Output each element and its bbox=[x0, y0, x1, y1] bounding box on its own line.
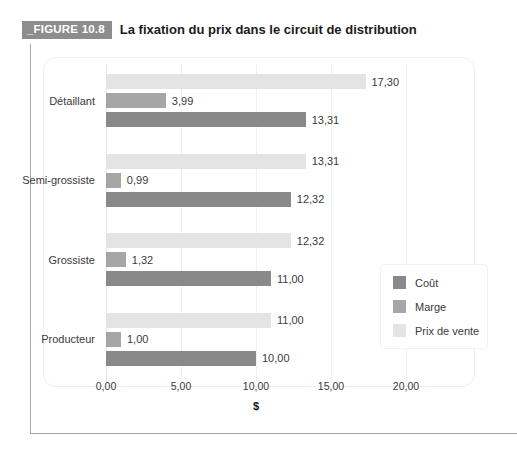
x-axis-tick-label: 0,00 bbox=[96, 380, 116, 392]
bar-row: 11,00 bbox=[106, 271, 406, 286]
bar[interactable] bbox=[106, 252, 126, 267]
plot-area: Détaillant17,303,9913,31Semi-grossiste13… bbox=[106, 64, 406, 382]
category-label: Détaillant bbox=[49, 95, 95, 107]
bar-row: 0,99 bbox=[106, 173, 406, 188]
x-axis-tick-label: 15,00 bbox=[318, 380, 344, 392]
bar-row: 10,00 bbox=[106, 351, 406, 366]
bar-value-label: 0,99 bbox=[127, 174, 148, 186]
figure-title: La fixation du prix dans le circuit de d… bbox=[120, 22, 417, 37]
category-label: Semi-grossiste bbox=[22, 174, 95, 186]
legend-item[interactable]: Coût bbox=[393, 276, 477, 289]
figure-header: _FIGURE 10.8 La fixation du prix dans le… bbox=[22, 21, 417, 39]
bar-value-label: 17,30 bbox=[372, 76, 400, 88]
legend-label: Prix de vente bbox=[415, 325, 479, 337]
x-axis-title: $ bbox=[253, 400, 259, 412]
bar-value-label: 11,00 bbox=[277, 273, 304, 285]
category-label: Producteur bbox=[41, 333, 95, 345]
bar[interactable] bbox=[106, 192, 291, 207]
x-axis-tick-label: 20,00 bbox=[393, 380, 419, 392]
legend-label: Marge bbox=[415, 301, 446, 313]
bar-group: Semi-grossiste13,310,9912,32 bbox=[106, 154, 406, 207]
legend-label: Coût bbox=[415, 277, 438, 289]
bar-value-label: 13,31 bbox=[312, 155, 340, 167]
legend-swatch-icon bbox=[393, 300, 406, 313]
bar-row: 13,31 bbox=[106, 112, 406, 127]
bar[interactable] bbox=[106, 93, 166, 108]
bar-row: 1,00 bbox=[106, 332, 406, 347]
legend-swatch-icon bbox=[393, 324, 406, 337]
bar-row: 3,99 bbox=[106, 93, 406, 108]
bar-value-label: 1,00 bbox=[127, 333, 148, 345]
bar[interactable] bbox=[106, 74, 366, 89]
bar-row: 1,32 bbox=[106, 252, 406, 267]
category-label: Grossiste bbox=[49, 254, 95, 266]
legend-item[interactable]: Prix de vente bbox=[393, 324, 477, 337]
bar-group: Grossiste12,321,3211,00 bbox=[106, 233, 406, 286]
x-axis-tick-label: 5,00 bbox=[171, 380, 191, 392]
bar-row: 12,32 bbox=[106, 233, 406, 248]
bar[interactable] bbox=[106, 313, 271, 328]
bar[interactable] bbox=[106, 351, 256, 366]
bar-value-label: 11,00 bbox=[277, 314, 304, 326]
bar-group: Producteur11,001,0010,00 bbox=[106, 313, 406, 366]
bar-value-label: 10,00 bbox=[262, 352, 290, 364]
figure-number-badge: _FIGURE 10.8 bbox=[22, 21, 112, 39]
bar[interactable] bbox=[106, 332, 121, 347]
bar-row: 13,31 bbox=[106, 154, 406, 169]
bar[interactable] bbox=[106, 233, 291, 248]
x-axis-tick-labels: 0,005,0010,0015,0020,00 bbox=[106, 380, 406, 398]
legend-item[interactable]: Marge bbox=[393, 300, 477, 313]
bar-row: 12,32 bbox=[106, 192, 406, 207]
bar-value-label: 12,32 bbox=[297, 235, 325, 247]
bar-value-label: 3,99 bbox=[172, 95, 193, 107]
bar-value-label: 12,32 bbox=[297, 193, 325, 205]
chart-panel: Détaillant17,303,9913,31Semi-grossiste13… bbox=[43, 57, 475, 387]
x-axis-tick-label: 10,00 bbox=[243, 380, 269, 392]
bar[interactable] bbox=[106, 173, 121, 188]
figure-page: _FIGURE 10.8 La fixation du prix dans le… bbox=[0, 0, 517, 458]
bar-row: 11,00 bbox=[106, 313, 406, 328]
bar-value-label: 13,31 bbox=[312, 114, 340, 126]
bar-group: Détaillant17,303,9913,31 bbox=[106, 74, 406, 127]
bar-row: 17,30 bbox=[106, 74, 406, 89]
bar[interactable] bbox=[106, 271, 271, 286]
chart-legend: CoûtMargePrix de vente bbox=[380, 264, 488, 349]
bar[interactable] bbox=[106, 112, 306, 127]
bar[interactable] bbox=[106, 154, 306, 169]
legend-swatch-icon bbox=[393, 276, 406, 289]
bar-value-label: 1,32 bbox=[132, 254, 153, 266]
